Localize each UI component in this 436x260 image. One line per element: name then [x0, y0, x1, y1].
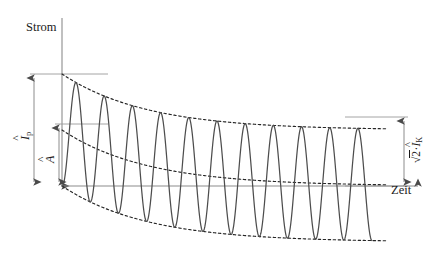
steady-state-symbol: ^I [410, 143, 422, 147]
ac-amplitude-hat: ^ [36, 157, 47, 162]
steady-state-label: √2·^IK [411, 137, 425, 163]
y-axis-label: Strom [26, 21, 57, 34]
peak-current-symbol: ^I [18, 136, 32, 140]
ac-amplitude-label: ^A [44, 156, 56, 163]
envelope-curves [62, 74, 388, 241]
x-axis-label: Zeit [391, 184, 411, 197]
current-waveform [62, 83, 372, 241]
ac-amplitude-symbol: ^A [43, 156, 57, 163]
dc-offset-curve [62, 130, 388, 185]
peak-current-label: ^Ip [19, 132, 33, 140]
waveform-plot [0, 0, 436, 260]
upper-envelope [62, 74, 388, 129]
diagram-root: Strom Zeit ^Ip ^A √2·^IK [0, 0, 436, 260]
steady-state-hat: ^ [403, 142, 414, 147]
radicand: 2 [409, 150, 422, 157]
peak-current-hat: ^ [11, 135, 22, 140]
